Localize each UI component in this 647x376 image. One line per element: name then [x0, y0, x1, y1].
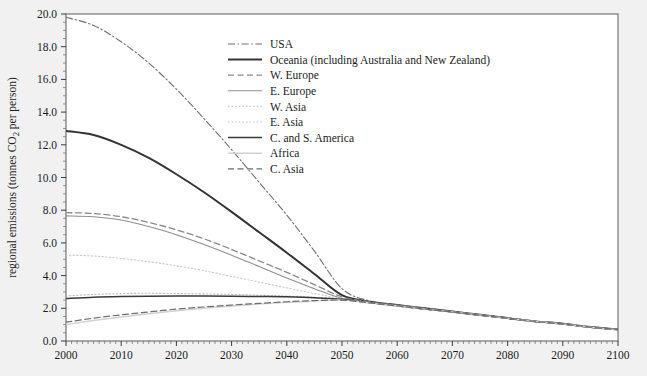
y-tick-label: 4.0 — [43, 270, 58, 282]
legend-label-c-asia[interactable]: C. Asia — [270, 163, 304, 175]
x-tick-label: 2080 — [496, 349, 519, 361]
legend-label-oceania-including-australia-and-new-zealand[interactable]: Oceania (including Australia and New Zea… — [270, 54, 490, 67]
x-tick-label: 2030 — [220, 349, 243, 361]
x-tick-label: 2070 — [441, 349, 464, 361]
y-tick-label: 8.0 — [43, 204, 58, 216]
y-tick-label: 16.0 — [37, 73, 57, 85]
x-tick-label: 2100 — [607, 349, 630, 361]
x-tick-label: 2010 — [110, 349, 133, 361]
emissions-line-chart: 2000201020202030204020502060207020802090… — [0, 0, 647, 376]
x-tick-label: 2040 — [275, 349, 298, 361]
x-tick-label: 2000 — [55, 349, 78, 361]
legend-label-w-europe[interactable]: W. Europe — [270, 69, 319, 82]
y-tick-label: 6.0 — [43, 237, 58, 249]
y-title-pre: regional emissions (tonnes CO — [6, 136, 19, 278]
y-tick-label: 12.0 — [37, 139, 57, 151]
y-tick-label: 0.0 — [43, 335, 58, 347]
x-tick-label: 2020 — [165, 349, 188, 361]
legend-label-c-and-s-america[interactable]: C. and S. America — [270, 132, 354, 144]
legend-label-usa[interactable]: USA — [270, 38, 294, 50]
y-tick-label: 20.0 — [37, 8, 57, 20]
y-title-post: per person) — [6, 77, 19, 132]
y-tick-label: 10.0 — [37, 172, 57, 184]
legend-label-africa[interactable]: Africa — [270, 147, 299, 159]
x-tick-label: 2050 — [331, 349, 354, 361]
legend-label-w-asia[interactable]: W. Asia — [270, 101, 306, 113]
x-tick-label: 2060 — [386, 349, 409, 361]
legend-label-e-europe[interactable]: E. Europe — [270, 85, 316, 98]
y-tick-label: 2.0 — [43, 302, 58, 314]
x-tick-label: 2090 — [551, 349, 574, 361]
figure-container: 2000201020202030204020502060207020802090… — [0, 0, 647, 376]
y-tick-label: 18.0 — [37, 41, 57, 53]
legend-label-e-asia[interactable]: E. Asia — [270, 116, 303, 128]
y-tick-label: 14.0 — [37, 106, 57, 118]
